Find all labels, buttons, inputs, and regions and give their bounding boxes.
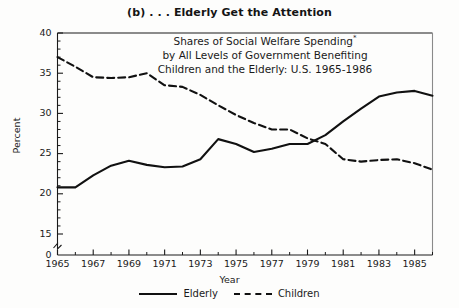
- axes-group: [54, 33, 433, 255]
- chart-figure: (b) . . . Elderly Get the Attention Shar…: [0, 0, 459, 308]
- legend-label-children: Children: [278, 288, 320, 299]
- plot-area: [0, 0, 459, 308]
- axis-break-icon: [54, 244, 62, 250]
- legend-item-children[interactable]: Children: [234, 288, 320, 299]
- chart-legend: Elderly Children: [0, 288, 459, 299]
- series-line-children: [58, 57, 433, 170]
- legend-swatch-solid-icon: [139, 293, 177, 295]
- series-group: [58, 57, 433, 187]
- legend-item-elderly[interactable]: Elderly: [139, 288, 217, 299]
- legend-swatch-dashed-icon: [234, 293, 272, 295]
- series-line-elderly: [58, 91, 433, 187]
- legend-label-elderly: Elderly: [183, 288, 217, 299]
